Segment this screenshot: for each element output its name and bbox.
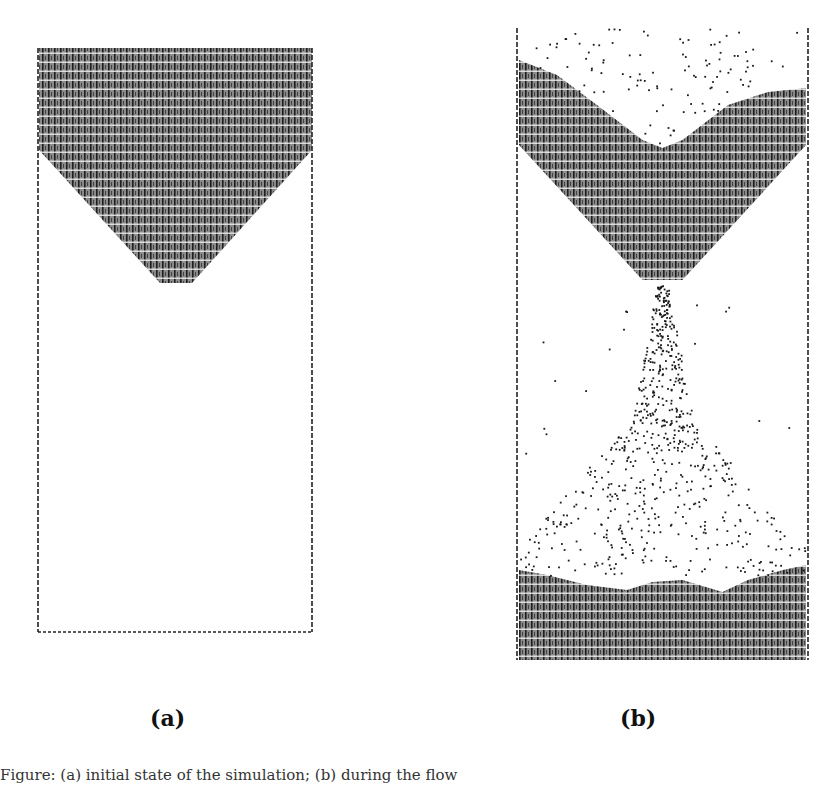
panel-a [0,0,417,700]
panel-b-label: (b) [620,705,656,731]
panel-b [417,0,834,700]
panel-a-label: (a) [150,705,185,731]
figure-caption: Figure: (a) initial state of the simulat… [0,766,834,786]
hourglass-initial-state [0,0,417,700]
hourglass-flowing-state [417,0,834,700]
